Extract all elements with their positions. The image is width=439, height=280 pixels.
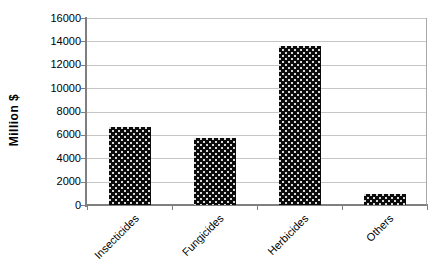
pesticide-sales-bar-chart: Million $ 020004000600080001000012000140… xyxy=(0,0,439,280)
x-category-label-herbicides: Herbicides xyxy=(265,212,310,257)
x-category-label-insecticides: Insecticides xyxy=(91,212,140,261)
x-category-label-fungicides: Fungicides xyxy=(179,212,225,258)
x-category-label-others: Others xyxy=(364,212,396,244)
x-axis-category-labels: InsecticidesFungicidesHerbicidesOthers xyxy=(0,0,439,280)
